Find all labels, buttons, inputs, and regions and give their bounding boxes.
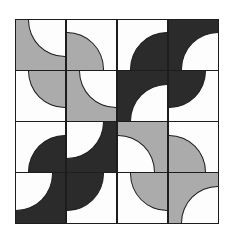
quarter-circle-icon (28, 135, 65, 172)
quilt-grid (15, 19, 219, 224)
quarter-circle-icon (181, 32, 218, 69)
quilt-tile-r2-c3 (169, 122, 218, 172)
quarter-circle-icon (79, 71, 116, 108)
quarter-circle-icon (67, 173, 104, 210)
quarter-circle-icon (67, 32, 104, 69)
quarter-circle-icon (118, 135, 155, 172)
quilt-tile-r3-c3 (169, 173, 218, 223)
quilt-tile-r2-c2 (118, 122, 167, 172)
quarter-circle-icon (130, 173, 167, 210)
quilt-tile-r2-c0 (16, 122, 65, 172)
quarter-circle-icon (130, 32, 167, 69)
quilt-tile-r3-c2 (118, 173, 167, 223)
quarter-circle-icon (130, 84, 167, 121)
quarter-circle-icon (16, 173, 53, 210)
quarter-circle-icon (169, 71, 206, 108)
quilt-tile-r1-c3 (169, 71, 218, 121)
quarter-circle-icon (28, 20, 65, 57)
quarter-circle-icon (28, 71, 65, 108)
quilt-tile-r0-c0 (16, 20, 65, 70)
quarter-circle-icon (67, 122, 104, 159)
quilt-tile-r0-c2 (118, 20, 167, 70)
quilt-tile-r1-c0 (16, 71, 65, 121)
quilt-tile-r1-c2 (118, 71, 167, 121)
quilt-tile-r1-c1 (67, 71, 116, 121)
quarter-circle-icon (169, 135, 206, 172)
canvas (0, 0, 232, 243)
quilt-tile-r0-c1 (67, 20, 116, 70)
quilt-tile-r3-c1 (67, 173, 116, 223)
quilt-tile-r2-c1 (67, 122, 116, 172)
quilt-tile-r3-c0 (16, 173, 65, 223)
quilt-tile-r0-c3 (169, 20, 218, 70)
quarter-circle-icon (181, 186, 218, 223)
